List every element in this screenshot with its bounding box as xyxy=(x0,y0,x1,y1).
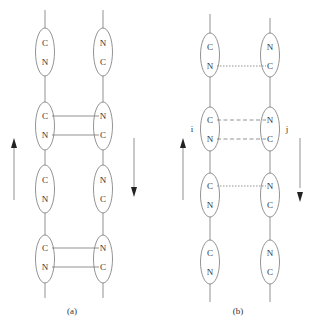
atom-label: N xyxy=(100,175,107,185)
residue-ellipse xyxy=(94,28,113,76)
strand-label-i: i xyxy=(191,124,194,134)
atom-label: N xyxy=(207,267,214,277)
residue-ellipse xyxy=(36,28,55,76)
atom-label: C xyxy=(100,130,106,140)
atom-label: N xyxy=(267,115,274,125)
residue-ellipse xyxy=(94,165,113,213)
atom-label: C xyxy=(42,243,48,253)
residue-ellipse xyxy=(94,102,113,150)
atom-label: N xyxy=(207,61,214,71)
residue-ellipse xyxy=(201,240,220,284)
residue-ellipse xyxy=(201,173,220,217)
atom-label: N xyxy=(100,38,107,48)
atom-label: C xyxy=(100,57,106,67)
atom-label: C xyxy=(267,200,273,210)
atom-label: C xyxy=(100,262,106,272)
atom-label: C xyxy=(42,38,48,48)
atom-label: N xyxy=(42,262,49,272)
residue-ellipse xyxy=(201,107,220,151)
atom-label: C xyxy=(42,111,48,121)
panel-b xyxy=(183,14,300,302)
up-arrow-icon xyxy=(180,138,186,148)
residue-ellipse xyxy=(261,240,280,284)
caption-a: (a) xyxy=(67,306,77,316)
strand-label-j: j xyxy=(285,124,289,134)
residue-ellipse xyxy=(36,102,55,150)
atom-label: N xyxy=(267,181,274,191)
atom-label: N xyxy=(267,248,274,258)
atom-label: N xyxy=(207,200,214,210)
down-arrow-icon xyxy=(131,187,137,197)
atom-label: N xyxy=(42,130,49,140)
atom-label: N xyxy=(42,57,49,67)
down-arrow-icon xyxy=(297,192,303,202)
atom-label: C xyxy=(207,115,213,125)
atom-label: C xyxy=(207,42,213,52)
panel-a xyxy=(14,10,134,298)
atom-label: C xyxy=(100,194,106,204)
atom-label: N xyxy=(100,243,107,253)
atom-label: C xyxy=(207,181,213,191)
atom-label: C xyxy=(42,175,48,185)
up-arrow-icon xyxy=(11,138,17,148)
atom-label: C xyxy=(207,248,213,258)
atom-label: N xyxy=(42,194,49,204)
atom-label: C xyxy=(267,61,273,71)
residue-ellipse xyxy=(261,107,280,151)
beta-sheet-diagram: C N C N C N C N N C N C N C N C (a) C N … xyxy=(0,0,310,324)
atom-label: N xyxy=(207,134,214,144)
residue-ellipse xyxy=(261,173,280,217)
residue-ellipse xyxy=(36,165,55,213)
atom-label: N xyxy=(100,111,107,121)
atom-label: C xyxy=(267,134,273,144)
atom-label: N xyxy=(267,42,274,52)
atom-label: C xyxy=(267,267,273,277)
caption-b: (b) xyxy=(233,306,244,316)
